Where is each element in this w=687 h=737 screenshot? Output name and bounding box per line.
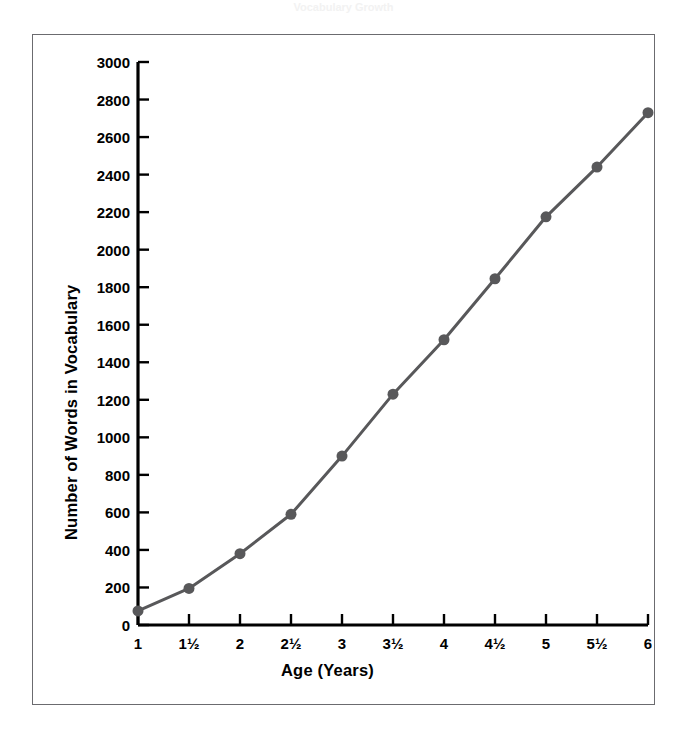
- data-point-marker: [643, 107, 654, 118]
- y-axis-tick-label: 2000: [42, 241, 130, 258]
- y-axis-tick-label: 1200: [42, 391, 130, 408]
- data-point-marker: [133, 605, 144, 616]
- x-axis-ticks: [138, 614, 648, 625]
- y-axis-tick-label: 800: [42, 466, 130, 483]
- data-point-marker: [592, 162, 603, 173]
- y-axis-tick-label: 2800: [42, 91, 130, 108]
- data-point-marker: [490, 273, 501, 284]
- data-point-marker: [439, 334, 450, 345]
- x-axis-tick-label: 1½: [179, 635, 200, 652]
- x-axis-tick-label: 2½: [281, 635, 302, 652]
- y-axis-title: Number of Words in Vocabulary: [62, 285, 81, 540]
- x-axis-tick-label: 5½: [587, 635, 608, 652]
- y-axis-tick-label: 2400: [42, 166, 130, 183]
- y-axis-tick-label: 0: [42, 617, 130, 634]
- x-axis-title: Age (Years): [281, 661, 374, 680]
- y-axis-tick-label: 2200: [42, 204, 130, 221]
- chart-figure: Vocabulary Growth 0200400600800100012001…: [0, 0, 687, 737]
- x-axis-tick-label: 5: [542, 635, 550, 652]
- y-axis-tick-label: 600: [42, 504, 130, 521]
- x-axis-tick-label: 3: [338, 635, 346, 652]
- y-axis-tick-label: 1600: [42, 316, 130, 333]
- y-axis-tick-label: 1000: [42, 429, 130, 446]
- x-axis-tick-label: 1: [134, 635, 142, 652]
- y-axis-tick-label: 3000: [42, 54, 130, 71]
- data-point-marker: [235, 548, 246, 559]
- y-axis-tick-label: 1800: [42, 279, 130, 296]
- x-axis-tick-label: 3½: [383, 635, 404, 652]
- vocabulary-series-markers: [133, 107, 654, 616]
- y-axis-tick-label: 1400: [42, 354, 130, 371]
- y-axis-tick-label: 400: [42, 541, 130, 558]
- data-point-marker: [337, 451, 348, 462]
- data-point-marker: [286, 509, 297, 520]
- x-axis-tick-label: 6: [644, 635, 652, 652]
- x-axis-tick-label: 4: [440, 635, 448, 652]
- data-point-marker: [388, 389, 399, 400]
- x-axis-tick-label: 4½: [485, 635, 506, 652]
- data-point-marker: [541, 211, 552, 222]
- x-axis-tick-label: 2: [236, 635, 244, 652]
- vocabulary-series-line: [138, 113, 648, 611]
- y-axis-ticks: [138, 62, 149, 625]
- axis-lines: [138, 62, 648, 625]
- y-axis-tick-label: 2600: [42, 129, 130, 146]
- data-point-marker: [184, 583, 195, 594]
- y-axis-tick-label: 200: [42, 579, 130, 596]
